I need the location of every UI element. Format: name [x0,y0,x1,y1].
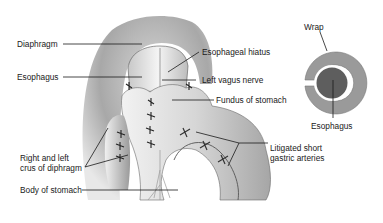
label-left-vagus-nerve: Left vagus nerve [202,75,263,85]
label-esophageal-hiatus: Esophageal hiatus [202,47,270,57]
label-crus-line2: crus of diphragm [20,163,82,173]
label-fundus-of-stomach: Fundus of stomach [216,95,287,105]
label-litigated-line1: Litigated short [270,143,322,153]
label-esophagus: Esophagus [17,72,59,82]
label-wrap: Wrap [304,22,324,32]
crus-shape [105,115,130,190]
diagram-canvas: Diaphragm Esophagus Esophageal hiatus Le… [0,0,383,223]
label-diaphragm: Diaphragm [17,39,58,49]
label-body-of-stomach: Body of stomach [20,185,82,195]
label-inset-esophagus: Esophagus [311,121,353,131]
label-litigated-line2: gastric arteries [270,153,324,163]
inset-cross-section [305,32,367,118]
label-crus-line1: Right and left [20,153,69,163]
